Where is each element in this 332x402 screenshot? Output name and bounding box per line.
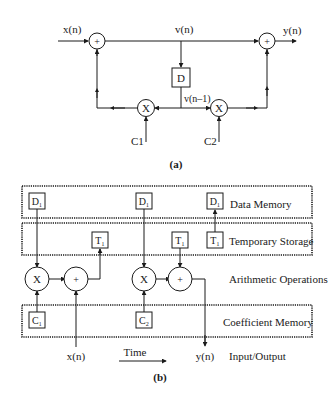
output-label: y(n) bbox=[283, 24, 302, 37]
d1-label-2: D₁ bbox=[139, 196, 150, 207]
v-label: v(n) bbox=[175, 23, 194, 36]
b-output-label: y(n) bbox=[196, 350, 215, 363]
b-input-label: x(n) bbox=[67, 350, 86, 363]
add-node-2-symbol: + bbox=[177, 274, 183, 285]
v-delayed-label: v(n–1) bbox=[184, 93, 211, 105]
add-node-1-symbol: + bbox=[73, 274, 79, 285]
c1-label: C1 bbox=[131, 135, 144, 147]
c1-box-label: C₁ bbox=[32, 315, 42, 326]
c2-label: C2 bbox=[204, 135, 217, 147]
part-b-memory-diagram: Data Memory Temporary Storage Arithmetic… bbox=[22, 186, 328, 384]
part-a-block-diagram: + + D X X x(n) y(n) v(n) v(n–1) C1 C2 (a… bbox=[58, 23, 302, 171]
caption-a: (a) bbox=[170, 158, 183, 171]
d1-label-3: D₁ bbox=[210, 196, 221, 207]
mult-node-1-symbol: X bbox=[33, 273, 41, 285]
input-label: x(n) bbox=[63, 23, 82, 36]
multiplier-2-symbol: X bbox=[215, 102, 223, 114]
time-label: Time bbox=[124, 346, 147, 358]
delay-label: D bbox=[177, 72, 185, 84]
t1-label-2: T₁ bbox=[175, 235, 185, 246]
t1-label-1: T₁ bbox=[95, 235, 105, 246]
input-output-label: Input/Output bbox=[229, 350, 286, 362]
caption-b: (b) bbox=[153, 371, 167, 384]
arithmetic-operations-label: Arithmetic Operations bbox=[229, 273, 328, 285]
t1-label-3: T₁ bbox=[210, 235, 220, 246]
feedforward-right-line bbox=[228, 49, 267, 108]
mult-node-2-symbol: X bbox=[140, 273, 148, 285]
temporary-storage-label: Temporary Storage bbox=[229, 235, 314, 247]
coefficient-memory-label: Coefficient Memory bbox=[223, 316, 313, 328]
adder-2-symbol: + bbox=[264, 36, 270, 47]
c2-box-label: C₂ bbox=[139, 315, 149, 326]
data-memory-label: Data Memory bbox=[230, 198, 292, 210]
diagram-canvas: + + D X X x(n) y(n) v(n) v(n–1) C1 C2 (a… bbox=[0, 0, 332, 402]
d1-label-1: D₁ bbox=[32, 196, 43, 207]
multiplier-1-symbol: X bbox=[142, 102, 150, 114]
feedback-left-line bbox=[97, 49, 138, 108]
adder-1-symbol: + bbox=[94, 36, 100, 47]
